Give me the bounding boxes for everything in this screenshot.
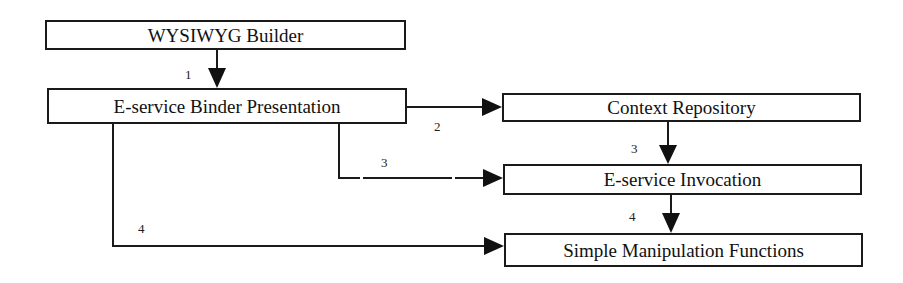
node-label: WYSIWYG Builder <box>148 26 304 45</box>
node-context-repository: Context Repository <box>502 93 861 122</box>
arrowhead-icon <box>208 68 226 88</box>
node-label: E-service Binder Presentation <box>114 97 341 116</box>
edge-label-4-invocation: 4 <box>629 210 636 223</box>
edge-label-3-binder: 3 <box>381 156 388 169</box>
edge-label-1: 1 <box>185 68 192 81</box>
edge-label-3-context: 3 <box>631 142 638 155</box>
edge-3-binder-invocation <box>339 123 360 178</box>
arrowhead-icon <box>482 98 502 116</box>
edge-4-binder-manipulation <box>113 123 486 246</box>
edge-label-4-binder: 4 <box>138 222 145 235</box>
arrowhead-icon <box>484 237 504 255</box>
node-wysiwyg-builder: WYSIWYG Builder <box>45 20 406 50</box>
node-label: E-service Invocation <box>604 170 762 189</box>
edge-label-2: 2 <box>434 120 441 133</box>
node-eservice-invocation: E-service Invocation <box>503 164 862 195</box>
arrowhead-icon <box>483 169 503 187</box>
node-label: Context Repository <box>607 98 755 117</box>
node-eservice-binder-presentation: E-service Binder Presentation <box>47 88 407 124</box>
node-simple-manipulation-functions: Simple Manipulation Functions <box>504 233 863 267</box>
node-label: Simple Manipulation Functions <box>563 241 804 260</box>
arrowhead-icon <box>659 145 677 164</box>
arrowhead-icon <box>662 213 680 233</box>
